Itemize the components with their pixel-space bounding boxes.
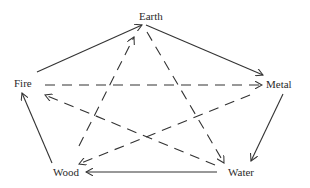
node-earth: Earth: [139, 11, 163, 22]
edge-earth-to-water: [147, 32, 224, 163]
node-metal: Metal: [266, 79, 292, 90]
node-wood: Wood: [53, 167, 79, 178]
edge-metal-to-wood: [79, 95, 250, 164]
node-water: Water: [228, 167, 254, 178]
edge-earth-to-metal: [146, 25, 263, 75]
edge-fire-to-earth: [37, 25, 142, 72]
node-fire: Fire: [14, 78, 32, 89]
edge-metal-to-water: [251, 94, 283, 161]
edge-water-to-fire: [45, 95, 215, 165]
edge-wood-to-fire: [22, 93, 52, 163]
edges-layer: [22, 25, 283, 172]
five-elements-diagram: [0, 0, 310, 188]
edge-wood-to-earth: [79, 37, 134, 146]
